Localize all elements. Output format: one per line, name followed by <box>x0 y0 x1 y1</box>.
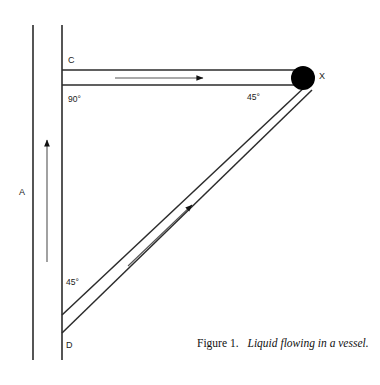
label-angle-45-at-x: 45° <box>247 93 260 102</box>
caption-number: Figure 1. <box>197 337 239 349</box>
diagonal-wall-lower-line <box>62 90 312 333</box>
figure-caption: Figure 1.Liquid flowing in a vessel. <box>197 337 369 351</box>
caption-text: Liquid flowing in a vessel. <box>248 337 369 349</box>
label-channel-a: A <box>19 188 25 197</box>
label-point-c: C <box>68 56 75 65</box>
diagonal-wall-upper-line <box>62 84 308 315</box>
label-angle-45-at-d: 45° <box>66 278 79 287</box>
junction-node-x <box>291 66 315 90</box>
vessel-diagram <box>0 0 380 385</box>
diagonal-channel-walls <box>62 84 312 333</box>
flow-arrow-diagonal <box>128 205 192 266</box>
label-point-d: D <box>66 341 73 350</box>
label-point-x: X <box>319 72 325 81</box>
figure-container: C 90° A 45° D X 45° Figure 1.Liquid flow… <box>0 0 380 385</box>
label-angle-90: 90° <box>68 95 81 104</box>
